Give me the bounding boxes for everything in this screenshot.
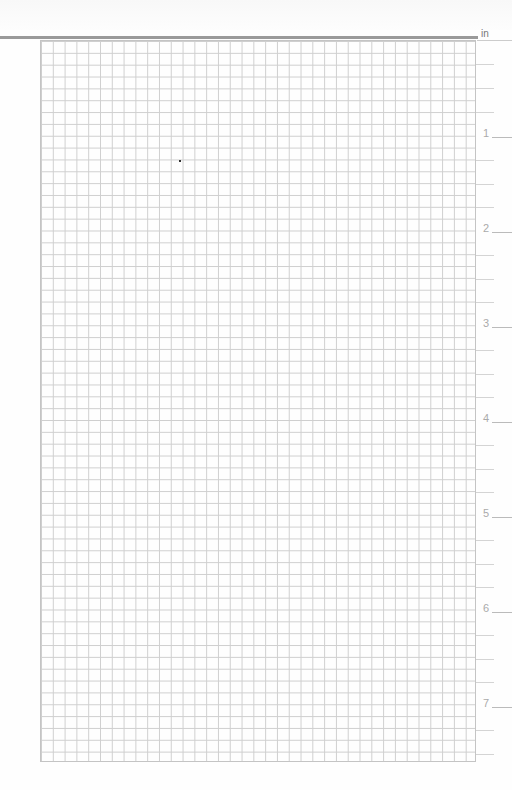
ruler-mark	[492, 232, 512, 233]
ruler-tick	[476, 302, 494, 303]
top-rule-line	[0, 36, 478, 39]
ruler-mark	[492, 612, 512, 613]
ruler-label-2: 2	[483, 222, 489, 234]
ruler-mark	[492, 422, 512, 423]
ruler-tick	[476, 207, 494, 208]
ruler-label-3: 3	[483, 317, 489, 329]
ruler-tick	[476, 587, 494, 588]
ruler-tick	[476, 255, 494, 256]
ruler-tick	[476, 564, 494, 565]
ruler-label-6: 6	[483, 602, 489, 614]
ruler-tick	[476, 754, 494, 755]
ruler-tick	[476, 88, 494, 89]
ruler-tick	[476, 730, 494, 731]
ruler-tick	[476, 160, 494, 161]
ruler-tick	[476, 445, 494, 446]
ruler-tick	[476, 492, 494, 493]
ruler-mark	[492, 707, 512, 708]
ruler-mark	[492, 327, 512, 328]
ruler-tick	[476, 469, 494, 470]
ruler-tick	[476, 374, 494, 375]
ruler-tick	[476, 540, 494, 541]
ruler-label-1: 1	[483, 127, 489, 139]
ruler-label-5: 5	[483, 507, 489, 519]
ruler-tick	[476, 112, 494, 113]
graph-grid	[40, 40, 476, 762]
ruler-tick	[476, 682, 494, 683]
ruler-tick	[476, 659, 494, 660]
ruler-tick	[476, 350, 494, 351]
ruler-tick	[476, 64, 494, 65]
ruler-label-4: 4	[483, 412, 489, 424]
ruler-mark	[492, 517, 512, 518]
pen-dot	[179, 160, 181, 162]
ruler-tick	[476, 397, 494, 398]
header-bleed-through	[0, 0, 512, 30]
ruler-tick	[476, 635, 494, 636]
unit-underline	[477, 40, 512, 41]
unit-label: in	[481, 28, 489, 39]
ruler-tick	[476, 279, 494, 280]
ruler-label-7: 7	[483, 697, 489, 709]
ruler-mark	[492, 137, 512, 138]
ruler-tick	[476, 184, 494, 185]
